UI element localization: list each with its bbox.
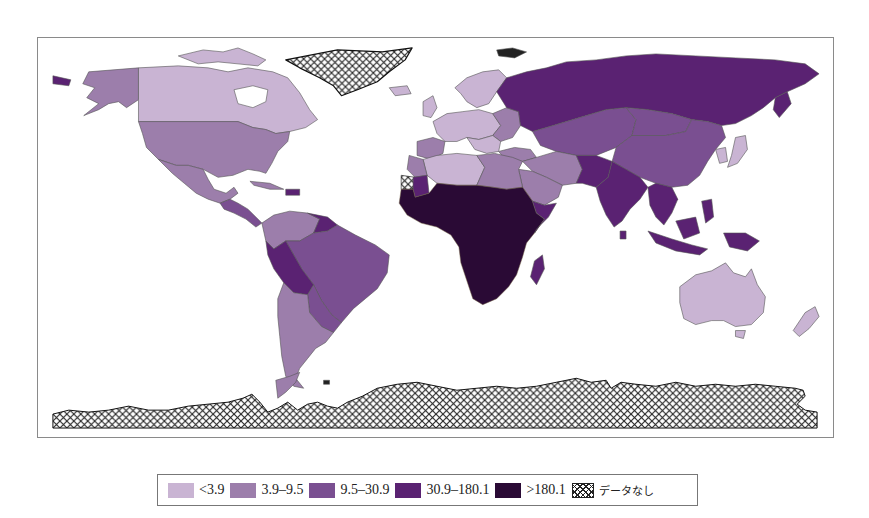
region-southeast-asia: [648, 183, 678, 225]
legend-swatch-hatched: [572, 483, 594, 498]
region-sub-saharan-africa: [399, 183, 544, 304]
region-sri-lanka: [620, 231, 626, 239]
legend-label: 3.9–9.5: [261, 482, 303, 498]
region-korea: [716, 147, 728, 163]
legend-label: データなし: [599, 482, 654, 498]
world-map: [37, 37, 834, 438]
region-australia: [680, 263, 766, 327]
region-papua: [724, 233, 760, 251]
region-canada-islands: [178, 48, 266, 66]
legend-swatch-light: [230, 483, 256, 498]
region-indonesia: [648, 231, 708, 255]
region-italy-balkans: [467, 136, 501, 154]
legend-swatch-lightest: [168, 483, 194, 498]
region-central-america: [220, 199, 262, 227]
region-morocco: [407, 155, 427, 177]
legend-item-9-5-30-9: 9.5–30.9: [309, 482, 389, 498]
region-uk: [423, 96, 437, 118]
legend-item-30-9-180-1: 30.9–180.1: [395, 482, 489, 498]
region-hispaniola: [286, 189, 300, 195]
region-tasmania: [735, 331, 745, 339]
legend-item-3-9-9-5: 3.9–9.5: [230, 482, 303, 498]
region-cuba: [250, 181, 284, 189]
region-borneo: [676, 217, 700, 239]
legend-label: >180.1: [526, 482, 565, 498]
legend-label: 9.5–30.9: [340, 482, 389, 498]
region-antarctica: [53, 378, 817, 428]
region-falklands: [324, 380, 330, 384]
legend-swatch-medium: [309, 483, 335, 498]
legend-label: <3.9: [199, 482, 224, 498]
region-svalbard: [497, 48, 527, 58]
map-legend: <3.9 3.9–9.5 9.5–30.9 30.9–180.1 >180.1 …: [157, 474, 698, 506]
legend-item-lt-3-9: <3.9: [168, 482, 224, 498]
region-usa: [138, 122, 289, 178]
legend-item-gt-180-1: >180.1: [495, 482, 565, 498]
region-aleutian: [53, 76, 71, 86]
region-philippines: [702, 199, 714, 223]
legend-swatch-dark: [395, 483, 421, 498]
region-alaska: [83, 68, 139, 116]
region-new-zealand: [793, 307, 819, 337]
map-svg: [38, 38, 833, 437]
legend-item-no-data: データなし: [572, 482, 654, 498]
legend-label: 30.9–180.1: [426, 482, 489, 498]
region-iceland: [389, 86, 411, 96]
legend-swatch-darkest: [495, 483, 521, 498]
region-japan: [728, 136, 748, 168]
region-libya-egypt: [477, 153, 523, 189]
region-north-africa: [423, 153, 485, 185]
region-madagascar: [531, 255, 545, 285]
